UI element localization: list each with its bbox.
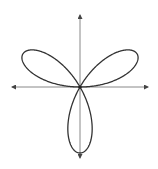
origin-point bbox=[78, 85, 81, 88]
rose-curve-diagram bbox=[0, 0, 158, 169]
